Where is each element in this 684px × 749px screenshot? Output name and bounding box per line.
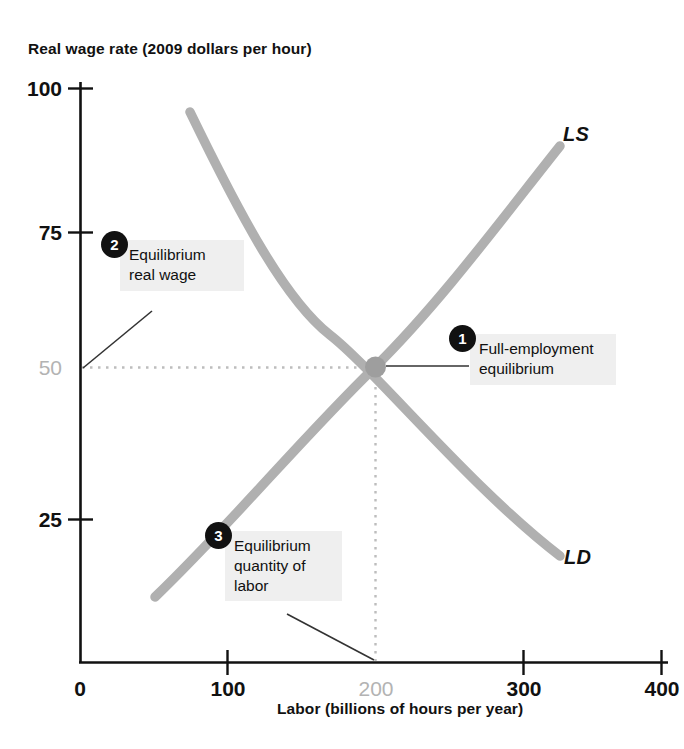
x-tick-label-400: 400 xyxy=(630,678,684,699)
callout-2-leader xyxy=(83,311,152,368)
x-tick-label-100: 100 xyxy=(196,678,260,699)
y-tick-label-50: 50 xyxy=(10,357,62,378)
callout-1-line1: Full-employment xyxy=(479,339,608,359)
callout-3-line2: quantity of xyxy=(234,556,334,576)
callout-3-leader xyxy=(287,614,374,660)
x-tick-label-300: 300 xyxy=(492,678,556,699)
y-tick-label-75: 75 xyxy=(10,222,62,243)
callout-2-line2: real wage xyxy=(129,265,236,285)
callout-2-line1: Equilibrium xyxy=(129,245,236,265)
callout-3-line3: labor xyxy=(234,576,334,596)
y-tick-label-100: 100 xyxy=(10,78,62,99)
callout-3-line1: Equilibrium xyxy=(234,536,334,556)
x-tick-label-200: 200 xyxy=(344,678,408,699)
callout-1-line2: equilibrium xyxy=(479,359,608,379)
x-tick-label-0: 0 xyxy=(48,678,112,699)
equilibrium-point xyxy=(365,357,386,378)
curve-label-ld: LD xyxy=(564,546,591,569)
callout-1-badge: 1 xyxy=(449,325,476,352)
y-tick-label-25: 25 xyxy=(10,509,62,530)
callout-2-badge: 2 xyxy=(101,231,128,258)
curve-label-ls: LS xyxy=(563,123,589,146)
callout-2-box: Equilibrium real wage xyxy=(120,240,244,291)
callout-3-badge: 3 xyxy=(205,522,232,549)
callout-3-box: Equilibrium quantity of labor xyxy=(225,531,342,601)
callout-1-box: Full-employment equilibrium xyxy=(470,334,616,385)
